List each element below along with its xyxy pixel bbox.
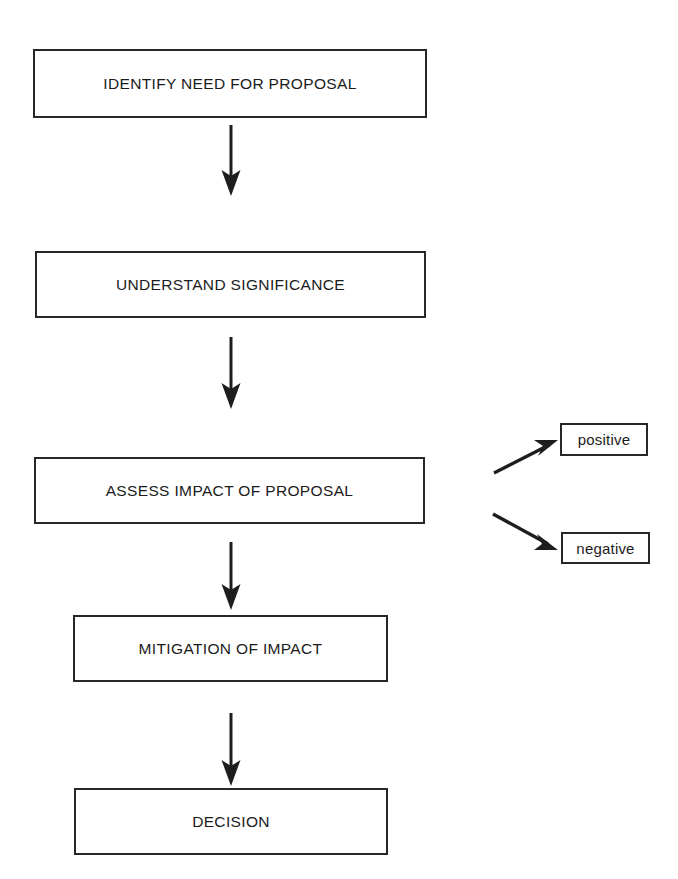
outcome-positive[interactable]: positive <box>560 423 648 456</box>
connector-identify-to-understand <box>222 125 241 196</box>
outcome-label: negative <box>576 540 634 557</box>
node-assess-impact-of-proposal[interactable]: ASSESS IMPACT OF PROPOSAL <box>34 457 425 524</box>
connector-assess-to-mitigation <box>222 542 241 610</box>
flowchart-canvas: IDENTIFY NEED FOR PROPOSAL UNDERSTAND SI… <box>0 0 678 879</box>
connector-assess-to-positive <box>494 440 558 473</box>
node-mitigation-of-impact[interactable]: MITIGATION OF IMPACT <box>73 615 388 682</box>
node-identify-need-for-proposal[interactable]: IDENTIFY NEED FOR PROPOSAL <box>33 49 427 118</box>
connector-assess-to-negative <box>493 514 558 550</box>
node-understand-significance[interactable]: UNDERSTAND SIGNIFICANCE <box>35 251 426 318</box>
node-decision[interactable]: DECISION <box>74 788 388 855</box>
connector-mitigation-to-decision <box>222 713 241 786</box>
node-label: MITIGATION OF IMPACT <box>139 640 323 658</box>
outcome-negative[interactable]: negative <box>561 532 650 564</box>
node-label: DECISION <box>192 813 270 831</box>
connector-understand-to-assess <box>222 337 241 409</box>
node-label: ASSESS IMPACT OF PROPOSAL <box>106 482 354 500</box>
node-label: UNDERSTAND SIGNIFICANCE <box>116 276 345 294</box>
outcome-label: positive <box>578 431 630 448</box>
node-label: IDENTIFY NEED FOR PROPOSAL <box>103 75 356 93</box>
